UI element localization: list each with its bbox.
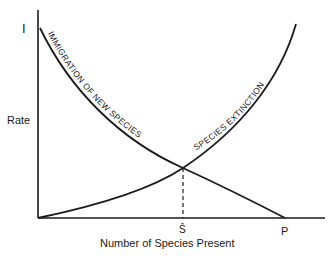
y-axis-label: Rate [7,114,30,126]
equilibrium-s-label: Ŝ [179,223,186,235]
intercept-label-i: I [22,21,26,36]
immigration-curve-label: IMMIGRATION OF NEW SPECIES [46,30,144,140]
x-axis-label: Number of Species Present [100,237,235,249]
extinction-curve-label: SPECIES EXTINCTION [192,80,266,153]
extinction-curve [38,24,296,218]
immigration-curve [40,28,285,218]
equilibrium-diagram: IMMIGRATION OF NEW SPECIES SPECIES EXTIN… [0,0,334,258]
pool-p-label: P [281,225,288,237]
